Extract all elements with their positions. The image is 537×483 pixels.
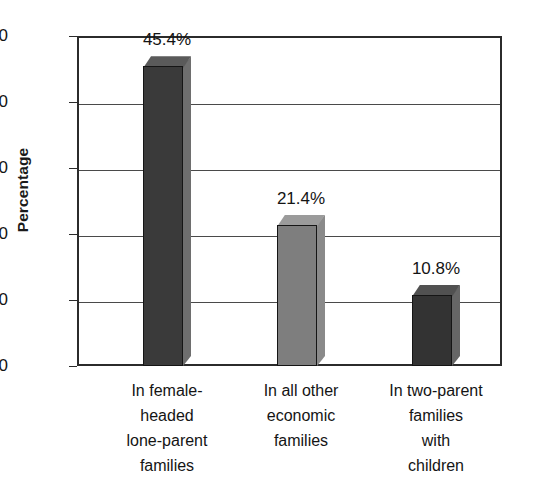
bar-side-face (317, 215, 325, 366)
x-axis-category-line: In two-parent (356, 378, 516, 403)
x-axis-category-line: with (356, 428, 516, 453)
bar-side-face (183, 56, 191, 366)
bar[interactable] (277, 215, 325, 366)
x-axis-category-line: families (356, 403, 516, 428)
bar-front-face (277, 225, 317, 366)
bar-value-label: 21.4% (249, 189, 353, 209)
bar-value-label: 45.4% (115, 30, 219, 50)
chart-figure: Percentage 01020304050 45.4%21.4%10.8% I… (0, 0, 537, 483)
bar-front-face (412, 295, 452, 366)
x-axis-category-line: families (87, 453, 247, 478)
x-axis-category-line: children (356, 453, 516, 478)
x-axis-category-label: In two-parentfamilieswithchildren (356, 378, 516, 478)
bar-side-face (452, 285, 460, 366)
bar[interactable] (143, 56, 191, 366)
bar[interactable] (412, 285, 460, 366)
bar-front-face (143, 66, 183, 366)
bar-value-label: 10.8% (384, 259, 488, 279)
